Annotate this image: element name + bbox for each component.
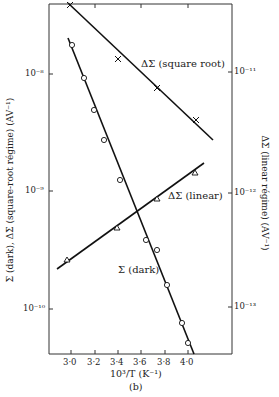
x-axis-label: 10³/T (K⁻¹) (110, 368, 162, 379)
y-right-tick-label: 10⁻¹² (234, 187, 256, 197)
y-left-tick-label: 10⁻⁸ (25, 68, 44, 78)
x-tick-label: 4·0 (180, 357, 194, 367)
x-tick-label: 3·2 (87, 357, 101, 367)
x-tick-label: 3·6 (133, 357, 147, 367)
panel-label: (b) (129, 381, 143, 392)
y-left-tick-label: 10⁻¹⁰ (23, 303, 45, 313)
y-left-tick-label: 10⁻⁹ (25, 185, 44, 195)
x-tick-label: 3·8 (157, 357, 171, 367)
x-ticks (71, 4, 188, 354)
linear-fit-line (57, 163, 204, 269)
y-right-tick-label: 10⁻¹¹ (234, 66, 256, 76)
annotation-dark: Σ (dark) (118, 264, 159, 275)
x-tick-label: 3·4 (110, 357, 124, 367)
sqrt-fit-line (68, 3, 213, 140)
y-left-axis-label: Σ (dark), ΔΣ (square-root régime) (AV⁻¹) (5, 98, 15, 282)
annotation-sqrt: ΔΣ (square root) (141, 58, 225, 69)
plot-area (0, 0, 279, 397)
x-tick-label: 3·0 (63, 357, 77, 367)
y-right-tick-label: 10⁻¹³ (234, 301, 256, 311)
y-right-axis-label: ΔΣ (linear régime) (AV⁻¹) (260, 135, 270, 250)
annotation-linear: ΔΣ (linear) (168, 190, 223, 201)
